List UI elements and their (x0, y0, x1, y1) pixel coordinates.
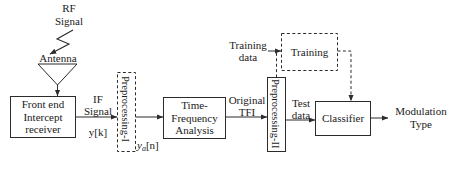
edge-training-to-classifier (338, 51, 352, 101)
y-k-label: y[k] (80, 126, 116, 139)
preprocessing-1-label: Preprocessing-I (120, 76, 131, 142)
training-box-label: Training (281, 33, 338, 71)
preprocessing-2-label: Preprocessing-II (270, 79, 281, 148)
original-tfi-label-line2: TFI (226, 106, 268, 119)
diagram-canvas: RF Signal Antenna Front end Intercept re… (0, 0, 458, 169)
y-a-n-tail: [n] (146, 139, 159, 151)
if-signal-label-line1: IF (80, 93, 116, 106)
rf-signal-label: RF Signal (46, 2, 92, 27)
original-tfi-label-line1: Original (226, 94, 268, 107)
training-data-label-line1: Training (226, 39, 270, 52)
front-end-box-label: Front end Intercept receiver (10, 96, 76, 138)
antenna-label: Antenna (33, 52, 83, 65)
training-data-label-line2: data (226, 51, 270, 64)
preprocessing-2-label-text: Preprocessing-II (270, 79, 281, 148)
if-signal-label-line2: Signal (78, 105, 118, 118)
modulation-type-label: Modulation Type (387, 105, 455, 130)
time-frequency-box-label: Time- Frequency Analysis (163, 97, 226, 139)
antenna-symbol (38, 64, 77, 96)
test-data-label-line1: Test (287, 97, 315, 110)
preprocessing-1-label-text: Preprocessing-I (120, 76, 131, 142)
rf-signal-arrow (50, 30, 73, 54)
classifier-box-label: Classifier (315, 101, 371, 136)
test-data-label-line2: data (287, 109, 315, 122)
